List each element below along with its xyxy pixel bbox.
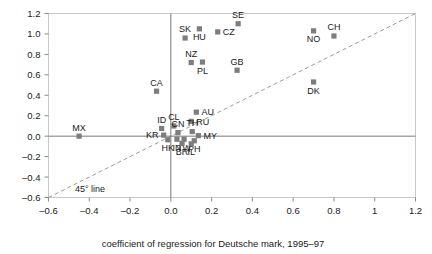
data-point-marker: [194, 110, 199, 115]
data-point-marker: [174, 137, 179, 142]
data-point-label: PL: [197, 66, 208, 76]
data-point-label: SK: [179, 24, 191, 34]
data-point: SK: [179, 24, 191, 40]
data-point-marker: [234, 68, 239, 73]
data-point: HU: [193, 26, 206, 42]
data-point-marker: [197, 26, 202, 31]
y-tick-label: 0.6: [27, 69, 40, 80]
data-point: CH: [327, 22, 340, 38]
data-point-label: NZ: [185, 49, 197, 59]
x-tick-label: –0.6: [39, 205, 58, 216]
y-axis-ticks: –0.6–0.4–0.20.00.20.40.60.81.01.2: [22, 8, 49, 203]
data-point-label: RU: [196, 117, 209, 127]
data-point-label: CZ: [223, 27, 235, 37]
data-point: CN: [171, 119, 184, 135]
45-degree-line: [49, 14, 416, 198]
data-point-label: DK: [307, 86, 320, 96]
x-tick-label: 0.8: [327, 205, 340, 216]
data-point-marker: [189, 141, 194, 146]
y-tick-label: 1.0: [27, 28, 40, 39]
data-point-marker: [331, 33, 336, 38]
x-axis-ticks: –0.6–0.4–0.20.00.20.40.60.811.2: [39, 198, 422, 216]
annotation-45-degree-line: 45° line: [75, 184, 105, 194]
data-point: MY: [196, 131, 217, 141]
data-point-label: IL: [187, 147, 195, 157]
data-point-marker: [200, 59, 205, 64]
x-tick-label: 1.2: [409, 205, 422, 216]
data-point-label: NO: [307, 34, 321, 44]
chart-annotations: 45° line: [75, 184, 105, 194]
x-axis-title: coefficient of regression for Deutsche m…: [102, 238, 325, 249]
data-point-label: GB: [231, 57, 244, 67]
y-tick-label: 0.0: [27, 131, 40, 142]
data-point-marker: [311, 28, 316, 33]
data-point: CA: [150, 78, 163, 94]
x-tick-label: 0.2: [205, 205, 218, 216]
data-point-label: SE: [232, 10, 244, 20]
x-tick-label: –0.4: [80, 205, 99, 216]
data-point-marker: [161, 133, 166, 138]
data-point-marker: [76, 134, 81, 139]
data-point: CZ: [215, 27, 235, 37]
data-point-label: MX: [72, 123, 86, 133]
data-point-marker: [190, 129, 195, 134]
data-point: KR: [146, 130, 166, 140]
data-point: GB: [231, 57, 244, 73]
data-point-marker: [236, 21, 241, 26]
data-point-marker: [189, 60, 194, 65]
y-tick-label: –0.4: [22, 172, 41, 183]
data-point-label: CH: [327, 22, 340, 32]
data-point: NO: [307, 28, 321, 44]
data-point-label: MY: [203, 131, 217, 141]
data-point-marker: [179, 141, 184, 146]
x-tick-label: 0.4: [246, 205, 259, 216]
data-point: SE: [232, 10, 244, 26]
data-point: ID: [157, 115, 167, 131]
data-point-label: HU: [193, 32, 206, 42]
data-point-label: KR: [146, 130, 159, 140]
data-point-marker: [175, 130, 180, 135]
reference-lines: [49, 14, 416, 198]
y-tick-label: 0.4: [27, 90, 40, 101]
data-points: MXCASKHUCZSENOCHNZPLGBDKAURUCLIDCNTHKRMY…: [72, 10, 340, 157]
data-point-marker: [159, 126, 164, 131]
data-point-marker: [215, 29, 220, 34]
data-point-marker: [183, 35, 188, 40]
y-tick-label: 1.2: [27, 8, 40, 19]
data-point-marker: [196, 133, 201, 138]
data-point-label: CA: [150, 78, 163, 88]
data-point-label: CN: [171, 119, 184, 129]
chart-canvas: –0.6–0.4–0.20.00.20.40.60.811.2 –0.6–0.4…: [0, 0, 432, 254]
data-point-marker: [154, 89, 159, 94]
y-tick-label: 0.8: [27, 49, 40, 60]
data-point-marker: [311, 79, 316, 84]
data-point: DK: [307, 79, 320, 95]
data-point-label: TH: [186, 118, 198, 128]
x-tick-label: –0.2: [121, 205, 140, 216]
data-point: PL: [197, 59, 208, 75]
y-tick-label: –0.2: [22, 151, 41, 162]
data-point-label: ID: [157, 115, 167, 125]
x-tick-label: 1: [372, 205, 377, 216]
scatter-plot-figure: –0.6–0.4–0.20.00.20.40.60.811.2 –0.6–0.4…: [0, 0, 432, 254]
x-tick-label: 0.0: [164, 205, 177, 216]
data-point: TH: [186, 118, 198, 134]
data-point: NZ: [185, 49, 197, 65]
y-tick-label: –0.6: [22, 192, 41, 203]
data-point-marker: [165, 137, 170, 142]
y-tick-label: 0.2: [27, 110, 40, 121]
x-tick-label: 0.6: [287, 205, 300, 216]
